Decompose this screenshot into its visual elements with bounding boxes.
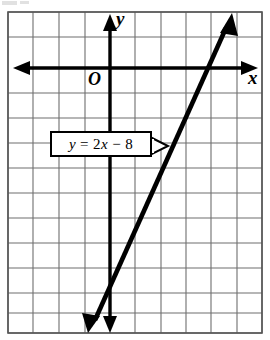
origin-label: O xyxy=(88,70,101,88)
x-axis-left-arrowhead xyxy=(13,61,30,75)
graph-figure: y = 2x − 8 y x O xyxy=(0,0,270,340)
grid-lines xyxy=(8,12,262,333)
equation-callout-text: y = 2x − 8 xyxy=(69,136,133,153)
y-axis-bottom-arrowhead xyxy=(103,316,117,333)
y-axis-top-arrowhead xyxy=(103,14,117,31)
x-axis-label: x xyxy=(248,68,258,87)
equation-callout-box: y = 2x − 8 xyxy=(50,131,152,157)
coordinate-plane-svg xyxy=(0,0,270,340)
plotted-line-upper-arrowhead xyxy=(220,13,238,36)
callout-pointer xyxy=(152,138,168,154)
y-axis-label: y xyxy=(116,9,124,28)
